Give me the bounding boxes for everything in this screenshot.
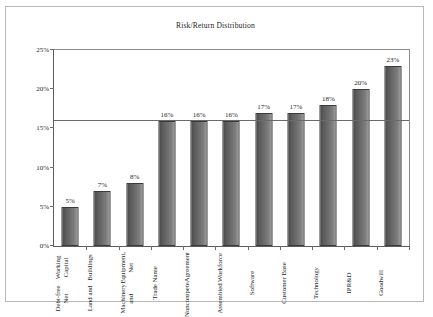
bar-value-label: 23% <box>386 56 399 64</box>
x-axis-category-label: AssembledWorkforce <box>216 252 246 314</box>
bar[interactable] <box>94 191 111 246</box>
bar-slot: 16% <box>183 50 215 246</box>
x-axis-category-label-line: Assembled <box>216 283 224 314</box>
bar-slot: 5% <box>54 50 86 246</box>
bar-value-label: 16% <box>161 111 174 119</box>
bar-slot: 17% <box>248 50 280 246</box>
y-axis-tick-label: 20% <box>36 85 54 93</box>
bar-value-label: 17% <box>257 103 270 111</box>
y-axis-tick-label: 25% <box>36 46 54 54</box>
bar[interactable] <box>320 105 337 246</box>
x-axis-category-label-line: Buildings <box>86 252 94 283</box>
x-axis-category-label-line: Customer Base <box>280 252 288 314</box>
x-axis-tick-mark <box>151 246 152 250</box>
x-axis-category-label: Machinery andEquipment, Net <box>119 252 149 314</box>
y-axis-tick-label: 0% <box>40 242 54 250</box>
y-axis-tick-label: 15% <box>36 124 54 132</box>
bars-layer: 5%7%8%16%16%16%17%17%18%20%23% <box>54 50 409 246</box>
x-axis-tick-mark <box>344 246 345 250</box>
x-axis-category-label: Trade Name <box>151 252 181 314</box>
x-axis-category-label-line: Debt-free Net <box>54 283 69 314</box>
x-axis-category-label-line: Workforce <box>216 252 224 283</box>
reference-line <box>54 120 409 121</box>
bar[interactable] <box>126 183 143 246</box>
bar[interactable] <box>223 121 240 246</box>
x-axis-tick-mark <box>377 246 378 250</box>
x-axis-category-label-line: Trade Name <box>151 252 159 314</box>
x-axis-tick-mark <box>86 246 87 250</box>
x-axis-category-label: Customer Base <box>280 252 310 314</box>
x-axis-category-label-line: Technology <box>312 252 320 314</box>
bar-value-label: 5% <box>65 197 74 205</box>
x-axis-category-label: Land andBuildings <box>86 252 116 314</box>
x-axis-category-label-line: Software <box>248 252 256 314</box>
bar[interactable] <box>352 89 369 246</box>
x-axis-category-label: IPR&D <box>345 252 375 314</box>
x-axis-tick-mark <box>215 246 216 250</box>
x-axis-category-label: NoncompeteAgreement <box>183 252 213 314</box>
plot-area: 0%5%10%15%20%25% 5%7%8%16%16%16%17%17%18… <box>53 49 410 247</box>
bar-slot: 20% <box>344 50 376 246</box>
x-axis-tick-mark <box>312 246 313 250</box>
bar-value-label: 8% <box>130 173 139 181</box>
bar-slot: 8% <box>119 50 151 246</box>
x-axis-category-label: Goodwill <box>377 252 407 314</box>
bar-slot: 7% <box>86 50 118 246</box>
bar-value-label: 7% <box>98 181 107 189</box>
chart-frame: Risk/Return Distribution 0%5%10%15%20%25… <box>5 6 424 302</box>
x-axis-labels: Debt-free NetWorking CapitalLand andBuil… <box>53 252 408 314</box>
x-axis-category-label-line: Land and <box>86 283 94 314</box>
bar[interactable] <box>384 66 401 246</box>
bar-value-label: 17% <box>290 103 303 111</box>
bar-slot: 18% <box>312 50 344 246</box>
bar-slot: 23% <box>377 50 409 246</box>
x-axis-tick-mark <box>183 246 184 250</box>
x-axis-tick-mark <box>280 246 281 250</box>
bar[interactable] <box>288 113 305 246</box>
bar-value-label: 20% <box>354 79 367 87</box>
bar[interactable] <box>191 121 208 246</box>
x-axis-tick-mark <box>248 246 249 250</box>
bar-value-label: 18% <box>322 95 335 103</box>
x-axis-category-label-line: Machinery and <box>119 284 134 314</box>
x-axis-category-label: Debt-free NetWorking Capital <box>54 252 84 314</box>
x-axis-category-label-line: Equipment, Net <box>119 252 134 284</box>
x-axis-category-label: Technology <box>312 252 342 314</box>
bar-value-label: 16% <box>193 111 206 119</box>
x-axis-tick-mark <box>119 246 120 250</box>
bar-slot: 16% <box>215 50 247 246</box>
x-axis-category-label-line: IPR&D <box>345 252 353 314</box>
x-axis-category-label: Software <box>248 252 278 314</box>
bar-value-label: 16% <box>225 111 238 119</box>
y-axis-tick-label: 5% <box>40 203 54 211</box>
x-axis-category-label-line: Working Capital <box>54 252 69 283</box>
bar[interactable] <box>62 207 79 246</box>
bar[interactable] <box>255 113 272 246</box>
x-axis-category-label-line: Agreement <box>183 252 191 282</box>
chart-title: Risk/Return Distribution <box>6 21 425 30</box>
bar-slot: 16% <box>151 50 183 246</box>
bar-slot: 17% <box>280 50 312 246</box>
y-axis-tick-label: 10% <box>36 164 54 172</box>
x-axis-category-label-line: Noncompete <box>183 282 191 317</box>
bar[interactable] <box>158 121 175 246</box>
x-axis-category-label-line: Goodwill <box>377 252 385 314</box>
x-axis-tick-mark <box>409 246 410 250</box>
